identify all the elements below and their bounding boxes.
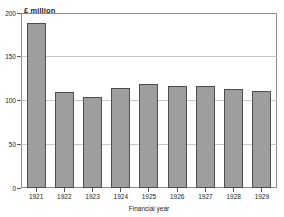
x-tick-slot-1929 [248, 188, 276, 192]
y-tick-mark-100 [17, 100, 21, 101]
bar-1921 [27, 23, 46, 188]
x-tick-slot-1923 [78, 188, 106, 192]
bar-slot-1922 [50, 14, 78, 188]
x-tick-mark-1925 [148, 188, 149, 192]
bar-1922 [55, 92, 74, 188]
y-tick-label-100: 100 [0, 97, 16, 104]
x-tick-label-1927: 1927 [191, 193, 219, 201]
x-tick-slot-1924 [107, 188, 135, 192]
x-tick-slot-1926 [163, 188, 191, 192]
bar-1928 [224, 89, 243, 188]
x-tick-mark-1922 [64, 188, 65, 192]
bar-slot-1927 [191, 14, 219, 188]
x-tick-label-1922: 1922 [50, 193, 78, 201]
y-tick-label-150: 150 [0, 53, 16, 60]
bar-slot-1928 [220, 14, 248, 188]
y-tick-mark-150 [17, 56, 21, 57]
x-tick-mark-1929 [261, 188, 262, 192]
bar-slot-1921 [22, 14, 50, 188]
bar-slot-1925 [135, 14, 163, 188]
bar-1929 [252, 91, 271, 188]
x-tick-slot-1928 [220, 188, 248, 192]
x-tick-slot-1927 [191, 188, 219, 192]
x-tick-mark-1928 [233, 188, 234, 192]
x-tick-label-1926: 1926 [163, 193, 191, 201]
bar-1926 [168, 86, 187, 188]
x-tick-label-1924: 1924 [107, 193, 135, 201]
x-tick-label-1923: 1923 [78, 193, 106, 201]
x-tick-label-1929: 1929 [248, 193, 276, 201]
x-axis-ticks [22, 188, 276, 192]
bar-chart: £ million 200 150 100 50 0 [0, 0, 284, 217]
x-tick-mark-1921 [36, 188, 37, 192]
x-tick-label-1921: 1921 [22, 193, 50, 201]
x-tick-mark-1926 [177, 188, 178, 192]
x-axis-labels: 1921 1922 1923 1924 1925 1926 1927 1928 … [22, 193, 276, 201]
bar-slot-1926 [163, 14, 191, 188]
bar-1924 [111, 88, 130, 188]
y-tick-label-200: 200 [0, 10, 16, 17]
y-tick-mark-0 [17, 188, 21, 189]
bar-1925 [139, 84, 158, 188]
x-tick-slot-1921 [22, 188, 50, 192]
y-tick-label-0: 0 [0, 185, 16, 192]
bar-slot-1929 [248, 14, 276, 188]
x-tick-slot-1925 [135, 188, 163, 192]
x-tick-slot-1922 [50, 188, 78, 192]
x-tick-label-1928: 1928 [220, 193, 248, 201]
bars-layer [22, 14, 276, 188]
bar-1927 [196, 86, 215, 188]
x-tick-mark-1927 [205, 188, 206, 192]
x-axis-title: Financial year [21, 205, 277, 213]
x-tick-label-1925: 1925 [135, 193, 163, 201]
bar-1923 [83, 97, 102, 188]
y-tick-mark-200 [17, 13, 21, 14]
x-tick-mark-1923 [92, 188, 93, 192]
bar-slot-1923 [78, 14, 106, 188]
x-tick-mark-1924 [120, 188, 121, 192]
y-tick-mark-50 [17, 144, 21, 145]
y-tick-label-50: 50 [0, 141, 16, 148]
bar-slot-1924 [107, 14, 135, 188]
